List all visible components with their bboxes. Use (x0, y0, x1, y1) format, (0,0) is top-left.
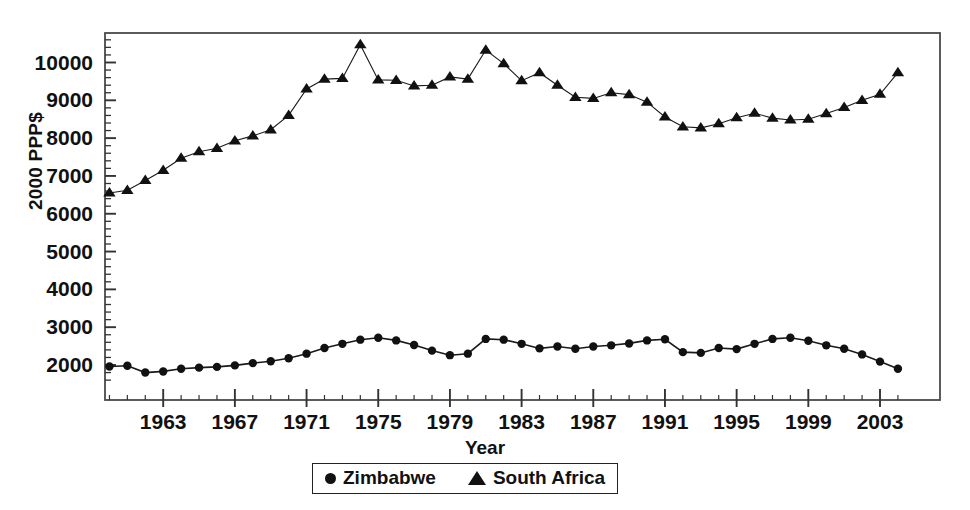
series-zimbabwe (105, 334, 902, 377)
y-tick-label-2000: 2000 (13, 354, 93, 375)
y-tick-label-6000: 6000 (13, 203, 93, 224)
line-chart-svg (0, 0, 970, 510)
y-tick-label-9000: 9000 (13, 89, 93, 110)
x-axis-title: Year (0, 437, 970, 459)
y-tick-label-3000: 3000 (13, 316, 93, 337)
x-tick-label-2003: 2003 (835, 411, 925, 432)
chart-figure: 2000 PPP$ Year 2000300040005000600070008… (0, 0, 970, 510)
series-south-africa (103, 39, 904, 197)
circle-marker-icon (325, 473, 336, 484)
y-tick-label-8000: 8000 (13, 127, 93, 148)
chart-legend: Zimbabwe South Africa (312, 463, 618, 494)
y-tick-label-4000: 4000 (13, 278, 93, 299)
legend-item-zimbabwe: Zimbabwe (325, 467, 436, 489)
y-tick-label-10000: 10000 (13, 52, 93, 73)
y-tick-label-7000: 7000 (13, 165, 93, 186)
legend-label-south-africa: South Africa (493, 467, 605, 489)
legend-label-zimbabwe: Zimbabwe (343, 467, 436, 489)
y-tick-label-5000: 5000 (13, 241, 93, 262)
legend-item-south-africa: South Africa (468, 467, 605, 489)
axis-ticks (105, 40, 898, 407)
triangle-marker-icon (468, 471, 486, 485)
